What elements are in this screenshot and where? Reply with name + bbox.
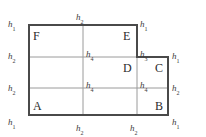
figure-container: ABCDEF h1h2h1h2h2h1h2h2h1h1h2h3h4h4h4 xyxy=(0,0,206,137)
grid-line-group xyxy=(29,25,168,115)
polygon-outline-group xyxy=(29,25,168,115)
step-polygon-diagram xyxy=(0,0,206,137)
step-polygon-outline xyxy=(29,25,168,115)
